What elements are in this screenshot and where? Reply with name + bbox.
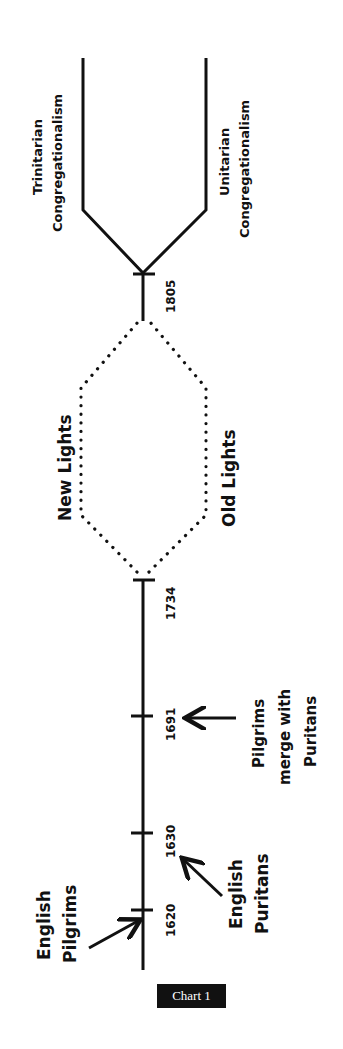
label-pilgrims-merge-line2: merge with: [276, 689, 294, 785]
old-lights-dotted-branch: [149, 322, 206, 572]
label-english-pilgrims-line1: English: [34, 890, 54, 960]
label-english-pilgrims-line2: Pilgrims: [60, 885, 80, 963]
label-pilgrims-merge-line1: Pilgrims: [250, 699, 268, 768]
label-english-puritans-line1: English: [226, 859, 246, 929]
unitarian-branch: [143, 58, 206, 273]
label-pilgrims-merge-line3: Puritans: [302, 696, 320, 767]
timeline-diagram: Trinitarian Congregationalism Unitarian …: [0, 0, 343, 1049]
year-1630: 1630: [164, 825, 178, 858]
label-new-lights: New Lights: [55, 414, 75, 521]
new-lights-dotted-branch: [81, 322, 138, 572]
label-old-lights: Old Lights: [219, 429, 239, 527]
year-1734: 1734: [164, 587, 178, 620]
label-english-puritans-line2: Puritans: [252, 853, 272, 934]
label-trinitarian-line2: Congregationalism: [50, 94, 65, 232]
year-1691: 1691: [164, 708, 178, 741]
label-trinitarian-line1: Trinitarian: [30, 119, 45, 195]
arrow-english-pilgrims: [89, 921, 138, 948]
label-unitarian-line1: Unitarian: [217, 128, 232, 196]
year-1805: 1805: [164, 280, 178, 313]
trinitarian-branch: [83, 58, 143, 273]
label-unitarian-line2: Congregationalism: [237, 100, 252, 238]
arrow-english-puritans: [184, 860, 222, 896]
chart-caption: Chart 1: [157, 984, 226, 1008]
year-1620: 1620: [164, 904, 178, 937]
